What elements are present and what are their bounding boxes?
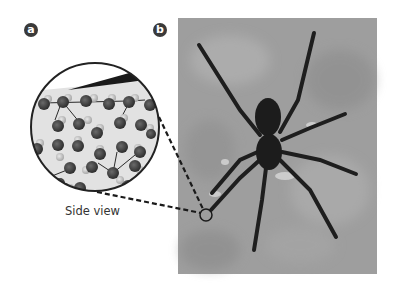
side-view-caption: Side view <box>65 204 120 218</box>
molecule-inset <box>25 63 165 200</box>
panel-label-b: b <box>153 23 167 37</box>
figure-artwork <box>0 0 398 292</box>
spider-photo <box>178 18 377 274</box>
figure: a b Side view <box>0 0 398 292</box>
panel-label-a: a <box>24 23 38 37</box>
